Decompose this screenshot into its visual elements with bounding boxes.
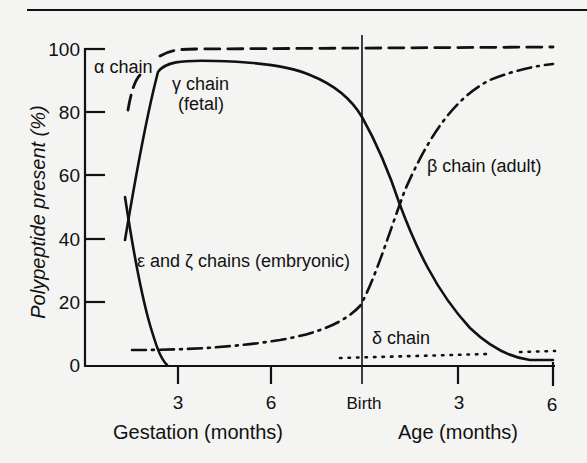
label-embryonic-chains: ε and ζ chains (embryonic): [137, 251, 350, 271]
x-tick-gestation-3: 3: [173, 392, 184, 413]
label-beta-chain: β chain (adult): [427, 156, 541, 176]
x-tick-age-3: 3: [454, 392, 465, 413]
axes: [84, 48, 555, 386]
y-tick-40: 40: [59, 229, 80, 250]
y-tick-60: 60: [59, 165, 80, 186]
y-tick-0: 0: [69, 355, 80, 376]
x-tick-age-6: 6: [547, 394, 558, 415]
series-delta-chain: [340, 351, 555, 358]
series-embryonic-chains: [125, 197, 167, 365]
y-tick-100: 100: [48, 39, 80, 60]
label-gamma-chain: γ chain: [172, 74, 229, 94]
y-tick-20: 20: [59, 292, 80, 313]
x-tick-gestation-6: 6: [266, 392, 277, 413]
label-fetal: (fetal): [178, 94, 224, 114]
y-axis-title: Polypeptide present (%): [27, 105, 49, 318]
x-axis-title-gestation: Gestation (months): [113, 421, 283, 443]
label-alpha-chain: α chain: [94, 57, 152, 77]
x-tick-birth: Birth: [347, 394, 382, 413]
label-delta-chain: δ chain: [372, 328, 430, 348]
x-axis-title-age: Age (months): [398, 421, 518, 443]
y-tick-80: 80: [59, 102, 80, 123]
hemoglobin-chain-chart: 100 80 60 40 20 0 Polypeptide present (%…: [0, 0, 587, 463]
